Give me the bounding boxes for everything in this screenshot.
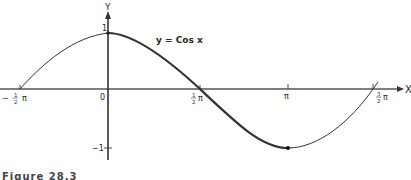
cosine-graph: X Y 1 −1 0 y = Cos x − 1 2 π 1 2 π π 3 2…	[0, 0, 411, 180]
svg-text:1: 1	[192, 92, 196, 98]
figure-caption: Figure 28.3	[2, 172, 77, 180]
y-axis-arrow-icon	[105, 11, 111, 19]
x-axis-arrow-icon	[397, 86, 404, 92]
cosine-curve-emphasis	[108, 33, 288, 148]
origin-label: 0	[100, 93, 105, 102]
x-axis-label: X	[405, 84, 411, 95]
svg-text:π: π	[22, 94, 27, 103]
svg-text:π: π	[198, 94, 203, 103]
curve-label: y = Cos x	[156, 35, 203, 45]
svg-text:2: 2	[192, 99, 196, 105]
min-point-marker	[286, 146, 290, 150]
svg-text:2: 2	[14, 99, 18, 105]
svg-text:1: 1	[14, 92, 18, 98]
x-tick-label-neg-half-pi: − 1 2 π	[2, 92, 27, 105]
y-axis-label: Y	[104, 2, 111, 12]
cosine-curve-right	[288, 82, 378, 148]
y-tick-one: 1	[102, 24, 107, 33]
svg-text:3: 3	[377, 91, 381, 97]
x-tick-label-three-half-pi: 3 2 π	[376, 91, 388, 104]
svg-text:−: −	[2, 94, 9, 103]
x-tick-label-pi: π	[284, 92, 289, 101]
y-tick-neg-one: −1	[92, 144, 104, 153]
x-tick-label-half-pi: 1 2 π	[191, 92, 203, 105]
svg-text:2: 2	[377, 98, 381, 104]
svg-text:π: π	[383, 93, 388, 102]
cosine-curve-left	[20, 33, 108, 89]
